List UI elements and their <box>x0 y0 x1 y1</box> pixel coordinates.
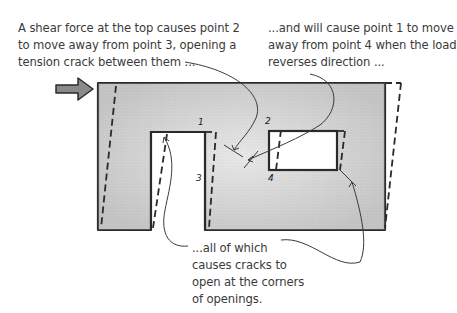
point-label-1: 1 <box>198 117 204 127</box>
point-label-3: 3 <box>196 173 202 183</box>
window-opening <box>269 131 337 170</box>
shear-force-arrow-icon <box>56 78 93 100</box>
point-label-2: 2 <box>265 116 271 126</box>
point-label-4: 4 <box>268 173 274 183</box>
